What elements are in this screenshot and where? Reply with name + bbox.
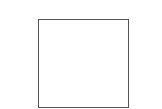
diagram-canvas bbox=[0, 0, 162, 109]
square-shape bbox=[38, 19, 129, 108]
